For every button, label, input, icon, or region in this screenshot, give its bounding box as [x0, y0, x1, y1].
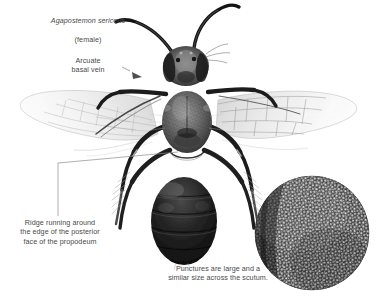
annotation-arcuate-basal-vein: Arcuate basal vein — [50, 56, 126, 75]
thorax — [149, 90, 225, 160]
specimen-sex: (female) — [34, 35, 142, 44]
antenna-right — [194, 5, 239, 48]
forewing-right — [216, 91, 357, 149]
mouthparts — [205, 44, 230, 63]
head — [163, 46, 209, 86]
abdomen — [150, 177, 218, 271]
annotation-propodeum-ridge: Ridge running around the edge of the pos… — [4, 218, 116, 246]
page-title: Agapostemon sericeus (female) — [34, 7, 142, 53]
annotation-scutum-punctures: Punctures are large and a similar size a… — [152, 264, 284, 283]
species-name: Agapostemon sericeus — [34, 16, 142, 25]
specimen-plate: Agapostemon sericeus (female) Arcuate ba… — [0, 0, 384, 296]
